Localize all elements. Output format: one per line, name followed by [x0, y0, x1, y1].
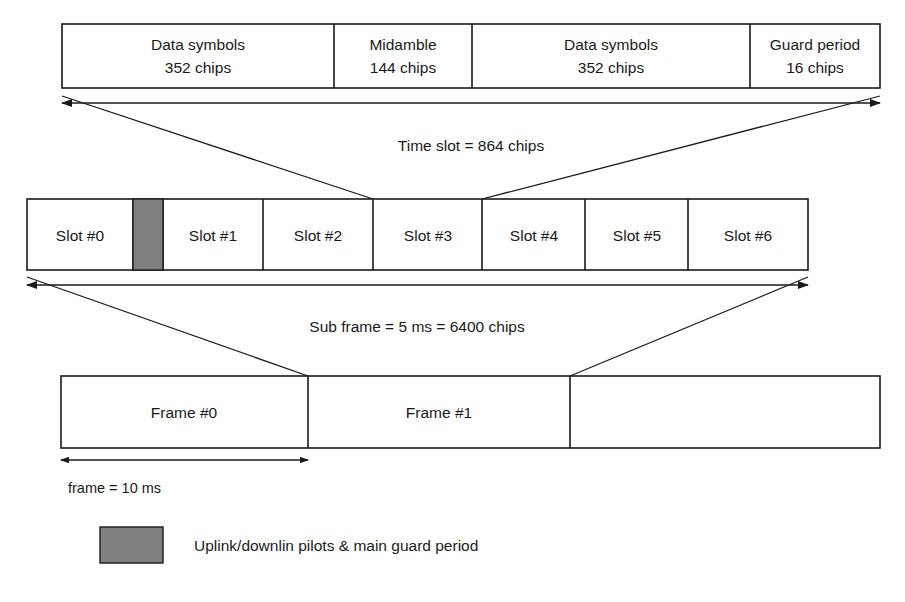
slot-row: Slot #0 Slot #1 Slot #2 Slot #3 Slot #4 … — [27, 199, 808, 270]
frame-cell-label-1: Frame #1 — [406, 404, 472, 421]
burst-cell-label-line1: Guard period — [770, 36, 860, 53]
slot-cell-label-6: Slot #6 — [724, 227, 772, 244]
leader-line-left — [62, 96, 373, 199]
burst-cell-label-line2: 16 chips — [786, 59, 844, 76]
frame-row: Frame #0 Frame #1 — [61, 376, 880, 448]
legend-swatch — [100, 527, 163, 563]
slot-cell-label-1: Slot #1 — [189, 227, 237, 244]
time-slot-dimension: Time slot = 864 chips — [62, 103, 880, 154]
slot-cell-label-3: Slot #3 — [404, 227, 452, 244]
burst-row: Data symbols 352 chips Midamble 144 chip… — [62, 24, 880, 88]
legend-label: Uplink/downlin pilots & main guard perio… — [194, 537, 478, 554]
slot-cell-label-0: Slot #0 — [56, 227, 105, 244]
tdd-frame-structure-diagram: Data symbols 352 chips Midamble 144 chip… — [0, 0, 905, 602]
slot-cell-label-2: Slot #2 — [294, 227, 342, 244]
burst-cell-label-line2: 352 chips — [165, 59, 232, 76]
burst-cell-label-line1: Data symbols — [564, 36, 658, 53]
sub-frame-dimension-label: Sub frame = 5 ms = 6400 chips — [309, 318, 525, 335]
burst-cell-label-line1: Midamble — [369, 36, 436, 53]
frame-dimension: frame = 10 ms — [61, 460, 308, 496]
time-slot-dimension-label: Time slot = 864 chips — [398, 137, 545, 154]
burst-cell-label-line2: 144 chips — [370, 59, 437, 76]
burst-cell-label-line2: 352 chips — [578, 59, 645, 76]
slot-cell-label-4: Slot #4 — [510, 227, 559, 244]
frame-cell-label-0: Frame #0 — [151, 404, 218, 421]
leader-line-right — [570, 277, 808, 376]
burst-cell-label-line1: Data symbols — [151, 36, 245, 53]
uplink-downlink-pilot-block — [133, 199, 163, 270]
burst-row-outline — [62, 24, 880, 88]
slot-cell-label-5: Slot #5 — [613, 227, 661, 244]
frame-dimension-label: frame = 10 ms — [68, 480, 161, 496]
sub-frame-dimension: Sub frame = 5 ms = 6400 chips — [27, 285, 808, 335]
legend: Uplink/downlin pilots & main guard perio… — [100, 527, 478, 563]
leader-line-left — [27, 277, 308, 376]
figure-container: Data symbols 352 chips Midamble 144 chip… — [0, 0, 905, 602]
